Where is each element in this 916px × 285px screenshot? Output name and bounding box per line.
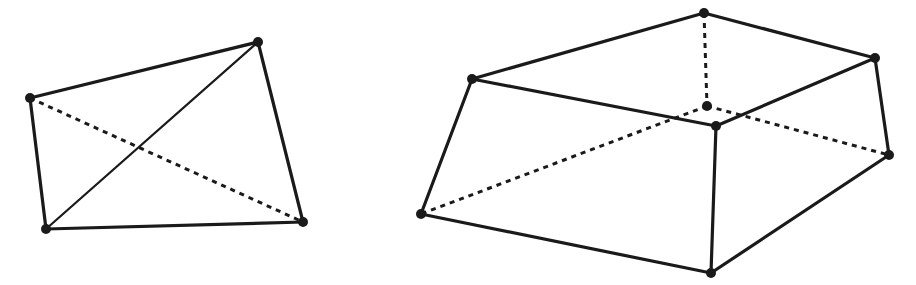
visible-edge-A-B bbox=[30, 42, 258, 98]
visible-edge-F-B bbox=[711, 126, 716, 273]
vertex-R bbox=[870, 53, 880, 63]
vertex-L bbox=[467, 74, 477, 84]
vertex-B bbox=[706, 268, 716, 278]
vertex-M bbox=[702, 101, 712, 111]
visible-edge-C-D bbox=[46, 222, 303, 229]
hidden-edge-M-RB bbox=[707, 106, 889, 155]
visible-edge-L-F bbox=[472, 79, 716, 126]
hidden-edge-A-C bbox=[30, 98, 303, 222]
visible-edge-T-R bbox=[704, 13, 875, 58]
tetrahedron-figure bbox=[25, 37, 308, 234]
vertex-RB bbox=[884, 150, 894, 160]
vertex-C bbox=[298, 217, 308, 227]
hidden-edge-M-LB bbox=[421, 106, 707, 214]
visible-edge-L-LB bbox=[421, 79, 472, 214]
vertex-B bbox=[253, 37, 263, 47]
vertex-A bbox=[25, 93, 35, 103]
frustum-figure bbox=[416, 8, 894, 278]
visible-edge-L-T bbox=[472, 13, 704, 79]
visible-edge-F-R bbox=[716, 58, 875, 126]
visible-edge-B-C bbox=[258, 42, 303, 222]
hidden-edge-T-M bbox=[704, 13, 707, 106]
visible-edge-R-RB bbox=[875, 58, 889, 155]
visible-edge-B-RB bbox=[711, 155, 889, 273]
visible-edge-D-A bbox=[30, 98, 46, 229]
visible-edge-D-B bbox=[46, 42, 258, 229]
geometry-diagram bbox=[0, 0, 916, 285]
vertex-LB bbox=[416, 209, 426, 219]
vertex-F bbox=[711, 121, 721, 131]
visible-edge-LB-B bbox=[421, 214, 711, 273]
vertex-D bbox=[41, 224, 51, 234]
vertex-T bbox=[699, 8, 709, 18]
